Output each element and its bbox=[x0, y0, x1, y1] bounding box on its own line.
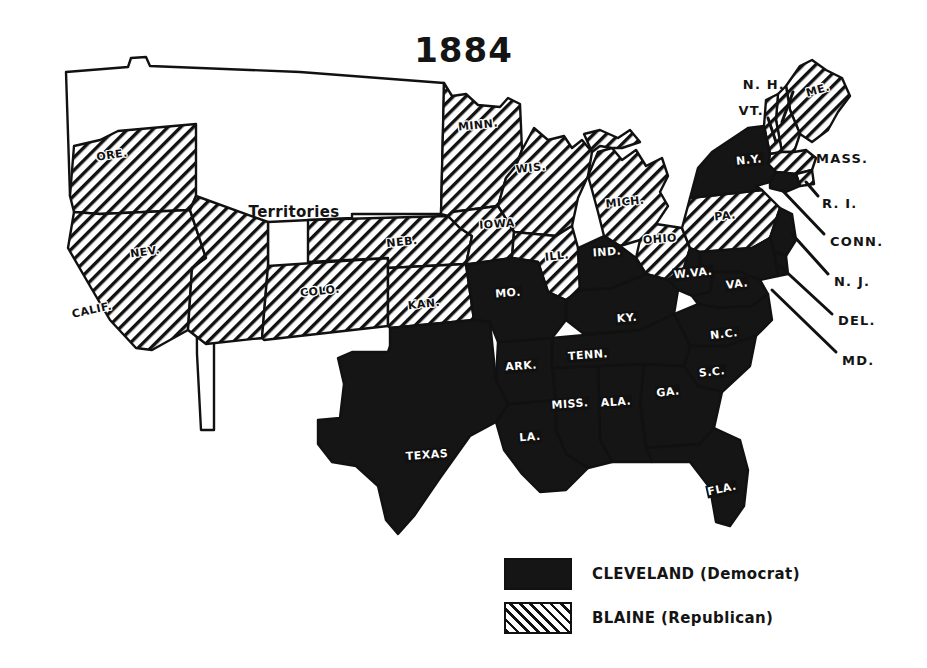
callout-label-mass: MASS. bbox=[816, 151, 868, 166]
legend-swatch-cleveland bbox=[504, 558, 572, 590]
callout-label-nh: N. H. bbox=[743, 77, 785, 92]
callout-label-md: MD. bbox=[842, 353, 874, 368]
callout-label-vt: VT. bbox=[739, 103, 765, 118]
election-map-figure: 1884 bbox=[0, 0, 927, 668]
state-kan bbox=[388, 264, 474, 328]
legend-swatch-blaine bbox=[504, 602, 572, 634]
legend-label-blaine: BLAINE (Republican) bbox=[592, 609, 773, 627]
state-ny bbox=[690, 126, 776, 198]
state-nev bbox=[188, 196, 268, 344]
state-texas bbox=[318, 320, 508, 534]
map-legend: CLEVELAND (Democrat) BLAINE (Republican) bbox=[504, 552, 800, 640]
callout-label-conn: CONN. bbox=[830, 234, 883, 249]
legend-item-cleveland: CLEVELAND (Democrat) bbox=[504, 552, 800, 596]
state-ark bbox=[496, 338, 556, 404]
legend-item-blaine: BLAINE (Republican) bbox=[504, 596, 800, 640]
legend-label-cleveland: CLEVELAND (Democrat) bbox=[592, 565, 800, 583]
callout-label-nj: N. J. bbox=[834, 274, 870, 289]
state-neb bbox=[308, 216, 472, 268]
callout-label-del: DEL. bbox=[838, 313, 876, 328]
state-calif bbox=[68, 210, 206, 350]
state-colo bbox=[262, 258, 388, 340]
callout-label-ri: R. I. bbox=[822, 196, 858, 211]
state-conn bbox=[770, 172, 800, 192]
